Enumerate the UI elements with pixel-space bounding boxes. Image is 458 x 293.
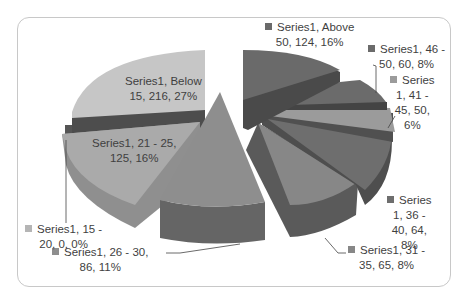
legend-key-icon [387,196,394,203]
legend-key-icon [368,45,375,52]
label-21-25: Series1, 21 - 25, 125, 16% [92,136,176,166]
legend-key-icon [390,76,397,83]
label-46-50: Series1, 46 - 50, 60, 8% [368,42,445,72]
label-41-45: Series 1, 41 - 45, 50, 6% [390,73,435,133]
label-below-15: Series1, Below 15, 216, 27% [125,74,202,104]
label-15-20: Series1, 15 - 20, 0, 0% [25,222,102,252]
legend-key-icon [265,23,272,30]
legend-key-icon [25,225,32,232]
label-above-50: Series1, Above 50, 124, 16% [265,20,354,50]
legend-key-icon [348,246,355,253]
label-31-35: Series1, 31 - 35, 65, 8% [348,243,425,273]
